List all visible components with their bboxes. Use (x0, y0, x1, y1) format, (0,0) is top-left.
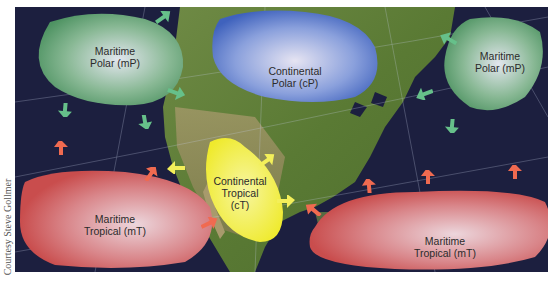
mp-arrow-icon (167, 87, 185, 101)
mt-arrow-icon (143, 167, 161, 181)
mp-arrow-icon (135, 115, 153, 129)
mt-arrow-icon (53, 141, 71, 155)
mp-arrow-icon (415, 86, 433, 100)
air-mass-label-mt-west: MaritimeTropical (mT) (55, 205, 175, 245)
mt-arrow-icon (201, 217, 219, 231)
mt-arrow-icon (361, 179, 379, 193)
air-mass-label-cp: ContinentalPolar (cP) (235, 57, 355, 97)
mt-arrow-icon (305, 202, 323, 216)
air-mass-label-mp-west: MaritimePolar (mP) (55, 37, 175, 77)
mp-arrow-icon (155, 11, 173, 25)
mt-arrow-icon (507, 165, 525, 179)
air-mass-label-ct: ContinentalTropical(cT) (195, 169, 285, 217)
ct-arrow-icon (167, 160, 185, 174)
air-mass-label-mp-east: MaritimePolar (mP) (455, 42, 545, 82)
mt-arrow-icon (420, 170, 438, 184)
mp-arrow-icon (55, 103, 73, 117)
mp-arrow-icon (442, 119, 460, 133)
air-mass-map: MaritimePolar (mP) ContinentalPolar (cP)… (15, 7, 548, 272)
air-mass-label-mt-east: MaritimeTropical (mT) (385, 227, 505, 267)
ct-arrow-icon (259, 154, 277, 168)
image-credit: Courtesy Steve Gollmer (0, 178, 14, 276)
